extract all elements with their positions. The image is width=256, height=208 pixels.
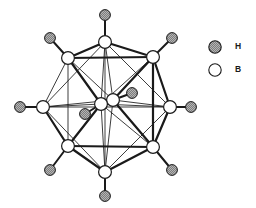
- hydrogen-atom: [45, 33, 56, 44]
- boron-boron-bond: [105, 42, 113, 100]
- boron-atom: [62, 52, 75, 65]
- hydrogen-atom: [100, 10, 111, 21]
- boron-boron-bond: [43, 58, 68, 107]
- boron-boron-bond: [153, 57, 170, 107]
- hydrogen-atom: [167, 165, 178, 176]
- legend-marker-h-icon: [209, 41, 221, 53]
- boron-boron-bond: [101, 42, 105, 104]
- molecule-diagram: HB: [0, 0, 256, 208]
- hydrogen-atom: [15, 102, 26, 113]
- boron-atom: [147, 51, 160, 64]
- hydrogen-atom: [80, 109, 91, 120]
- boron-atom: [95, 98, 108, 111]
- boron-atom: [164, 101, 177, 114]
- hydrogen-atom: [167, 33, 178, 44]
- legend: HB: [209, 41, 241, 76]
- molecular-structure-figure: HB: [0, 0, 256, 208]
- boron-boron-bond: [105, 107, 170, 172]
- boron-boron-bond: [68, 57, 153, 58]
- legend-marker-b-icon: [209, 64, 221, 76]
- boron-atom: [147, 141, 160, 154]
- hydrogen-atom: [127, 88, 138, 99]
- boron-atom: [37, 101, 50, 114]
- boron-boron-bond: [68, 58, 101, 104]
- boron-atom: [99, 166, 112, 179]
- legend-label-b: B: [235, 64, 241, 74]
- hydrogen-atom: [100, 191, 111, 202]
- boron-atom: [99, 36, 112, 49]
- boron-boron-bond: [105, 147, 153, 172]
- legend-label-h: H: [235, 41, 241, 51]
- boron-boron-bond: [101, 104, 105, 172]
- boron-boron-bond: [68, 58, 113, 100]
- hydrogen-atom: [45, 165, 56, 176]
- boron-atom: [62, 140, 75, 153]
- hydrogen-atom: [186, 102, 197, 113]
- boron-atom: [107, 94, 120, 107]
